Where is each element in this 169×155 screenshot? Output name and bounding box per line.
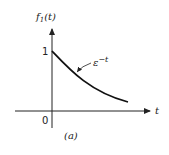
y-tick-one: 1 — [42, 46, 48, 57]
y-axis-label: f1(t) — [35, 11, 56, 24]
curve-label: ε−t — [93, 55, 109, 68]
decay-curve — [52, 51, 128, 102]
exponential-decay-plot: f1(t) 1 0 t ε−t (a) — [0, 0, 169, 155]
caption: (a) — [64, 130, 78, 141]
origin-label: 0 — [42, 115, 48, 126]
annotation-arrow — [77, 63, 91, 72]
x-axis-label: t — [155, 105, 160, 116]
